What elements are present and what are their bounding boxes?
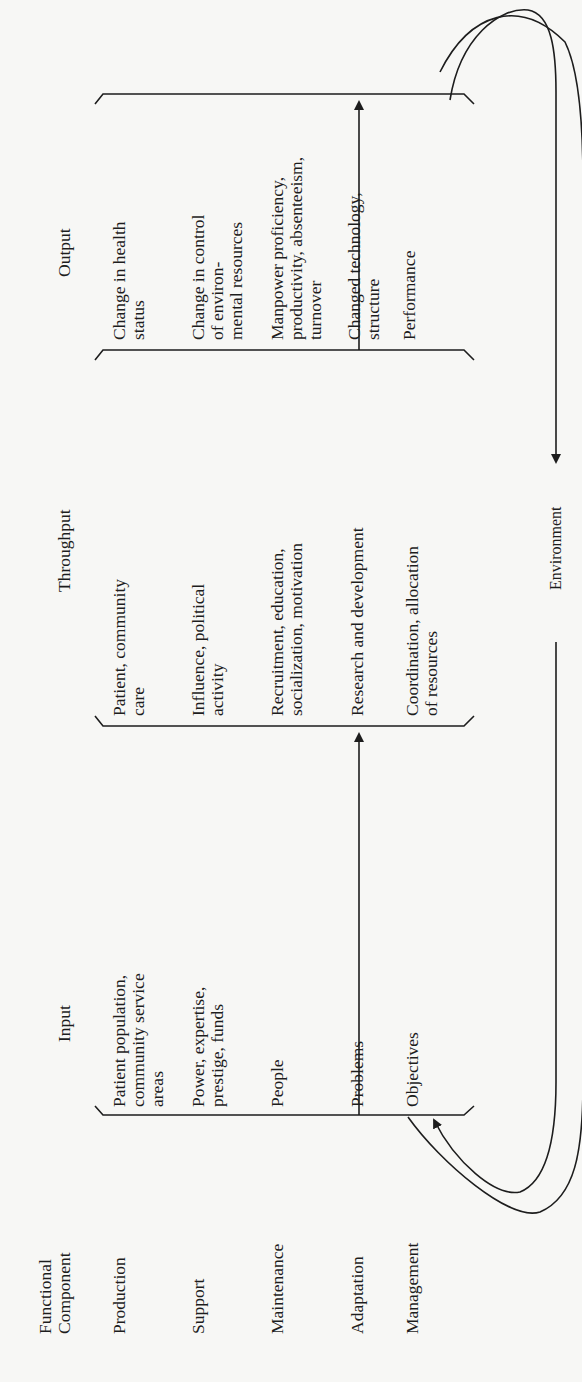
throughput-close-bracket: [95, 350, 474, 360]
throughput-cell-maintenance: Recruitment, education, socialization, m…: [268, 543, 306, 716]
throughput-line: Recruitment, education,: [268, 543, 287, 716]
environment-label: Environment: [548, 504, 564, 592]
rotated-diagram-page: Functional Component Input Throughput Ou…: [0, 0, 582, 1382]
output-line: mental resources: [227, 215, 246, 340]
throughput-line: activity: [208, 584, 227, 716]
output-line: Changed technology,: [345, 192, 364, 340]
header-input: Input: [55, 1005, 74, 1042]
header-functional-line1: Functional: [36, 1252, 55, 1334]
output-bracket: [95, 94, 474, 104]
throughput-bracket: [95, 716, 474, 726]
throughput-line: Coordination, allocation: [403, 546, 422, 716]
throughput-line: Patient, community: [110, 579, 129, 716]
output-cell-production: Change in health status: [110, 221, 148, 340]
input-cell-management: Objectives: [403, 1032, 422, 1107]
input-cell-support: Power, expertise, prestige, funds: [189, 987, 227, 1107]
throughput-cell-production: Patient, community care: [110, 579, 148, 716]
header-functional-line2: Component: [55, 1252, 74, 1334]
row-label-support: Support: [189, 1279, 208, 1334]
throughput-line: care: [129, 579, 148, 716]
input-cell-production: Patient population, community service ar…: [110, 973, 167, 1107]
throughput-line: socialization, motivation: [287, 543, 306, 716]
throughput-cell-adaptation: Research and development: [348, 527, 367, 716]
input-line: Power, expertise,: [189, 987, 208, 1107]
header-throughput: Throughput: [55, 509, 74, 592]
output-cell-adaptation: Changed technology, structure: [345, 192, 383, 340]
input-line: Patient population,: [110, 973, 129, 1107]
input-line: areas: [148, 973, 167, 1107]
input-bracket: [95, 1106, 474, 1115]
output-line: Manpower proficiency,: [268, 157, 287, 340]
output-line: Change in health: [110, 221, 129, 340]
input-cell-maintenance: People: [268, 1059, 287, 1107]
output-cell-maintenance: Manpower proficiency, productivity, abse…: [268, 157, 325, 340]
row-label-adaptation: Adaptation: [348, 1256, 367, 1334]
input-line: prestige, funds: [208, 987, 227, 1107]
row-label-production: Production: [110, 1257, 129, 1334]
output-line: status: [129, 221, 148, 340]
header-output: Output: [55, 228, 74, 277]
output-line: turnover: [306, 157, 325, 340]
input-line: community service: [129, 973, 148, 1107]
output-line: structure: [364, 192, 383, 340]
throughput-line: Influence, political: [189, 584, 208, 716]
output-line: Change in control: [189, 215, 208, 340]
throughput-cell-support: Influence, political activity: [189, 584, 227, 716]
throughput-cell-management: Coordination, allocation of resources: [403, 546, 441, 716]
output-cell-support: Change in control of environ- mental res…: [189, 215, 246, 340]
throughput-line: of resources: [422, 546, 441, 716]
output-line: productivity, absenteeism,: [287, 157, 306, 340]
output-cell-management: Performance: [400, 251, 419, 340]
output-line: of environ-: [208, 215, 227, 340]
row-label-management: Management: [403, 1243, 422, 1334]
header-functional-component: Functional Component: [36, 1252, 74, 1334]
input-cell-adaptation: Problems: [348, 1041, 367, 1107]
row-label-maintenance: Maintenance: [268, 1244, 287, 1334]
